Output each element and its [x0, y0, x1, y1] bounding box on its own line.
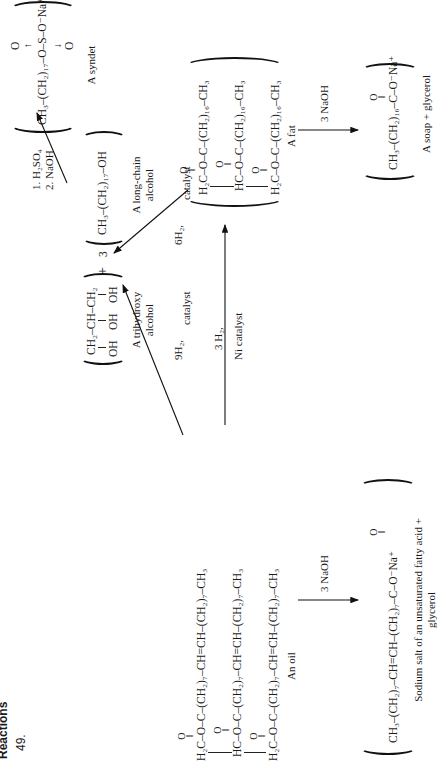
oil-row-1: H₂C–O–C–(CH₂)₇–CH=CH–(CH₂)₇–CH₃ [196, 569, 208, 761]
backbone-bond [244, 752, 266, 753]
fat-label: A fat [285, 125, 298, 147]
reaction-diagram: Reactions 49. CH₃–(CH₂)₁₇–O–S–O⁻Na⁺ O↑ ↓ [0, 0, 437, 765]
right-paren [362, 63, 418, 77]
fat-saponification-reagent: 3 NaOH [318, 85, 331, 122]
glycerol-backbone: CH₂–CH–CH₂ [86, 288, 98, 355]
bond-line [98, 347, 106, 348]
alcohol-formula: CH₃–(CH₂)₁₇–OH [97, 151, 109, 235]
left-paren [360, 741, 416, 755]
backbone-bond [246, 186, 268, 187]
oil-hydrogenolysis-reagent: 9H₂, [172, 340, 185, 360]
glycerol-oh-3: OH [108, 286, 120, 303]
salt-label: Sodium salt of an unsaturated fatty acid… [412, 500, 437, 720]
carbonyl-oxygen: O‖ [180, 165, 196, 175]
fat-hydrogenolysis-reagent: 6H₂, [172, 225, 185, 245]
right-paren [80, 273, 126, 287]
backbone-bond [210, 186, 234, 187]
fat-row-2: HC–O–C–(CH₂)₁₆–CH₃ [234, 80, 246, 191]
carbonyl-oxygen: O‖ [216, 159, 232, 169]
carbonyl-oxygen: O‖ [252, 165, 268, 175]
carbonyl-oxygen: O‖ [214, 725, 230, 735]
oil-saponification-reagent: 3 NaOH [318, 555, 331, 592]
right-paren [10, 1, 76, 17]
salt-formula: CH₃–(CH₂)₇–CH=CH–(CH₂)₇–C–O⁻Na⁺ [388, 551, 400, 743]
syndet-formula: CH₃–(CH₂)₁₇–O–S–O⁻Na⁺ [37, 0, 49, 125]
oil-row-3: H₂C–O–C–(CH₂)₇–CH=CH–(CH₂)₇–CH₃ [268, 569, 280, 761]
plus-sign: + [95, 267, 111, 275]
syndet-bottom-oxygen: ↓O [52, 42, 75, 50]
syndet-label: A syndet [85, 25, 98, 105]
backbone-bond [208, 752, 232, 753]
right-paren [360, 479, 416, 493]
hydrogenation-catalyst: Ni catalyst [232, 313, 245, 360]
soap-label: A soap + glycerol [420, 75, 433, 153]
bond-line [98, 320, 106, 321]
fat-row-3: H₂C–O–C–(CH₂)₁₆–CH₃ [270, 80, 282, 195]
right-paren [82, 131, 126, 145]
reaction-arrows [0, 0, 437, 765]
carbonyl-oxygen: O‖ [370, 527, 386, 537]
stoich-coefficient: 3 [98, 251, 110, 257]
glycerol-oh-2: OH [108, 313, 120, 330]
carbonyl-oxygen: O‖ [250, 731, 266, 741]
syndet-top-oxygen: O↑ [10, 42, 33, 50]
glycerol-oh-1: OH [108, 340, 120, 357]
right-paren [185, 57, 284, 75]
carbonyl-oxygen: O‖ [370, 92, 386, 102]
glycerol-label: A trihydroxy alcohol [130, 280, 155, 360]
bond-line [98, 294, 106, 295]
oil-hydrogenolysis-catalyst: catalyst [180, 291, 193, 325]
oil-label: An oil [285, 652, 298, 680]
reagents-sulfonation: 1. H₂SO₄ 2. NaOH [30, 149, 55, 190]
oil-row-2: HC–O–C–(CH₂)₇–CH=CH–(CH₂)₇–CH₃ [232, 569, 244, 757]
hydrogenation-reagent: 3 H₂, [212, 327, 225, 350]
carbonyl-oxygen: O‖ [178, 731, 194, 741]
alcohol-label: A long-chain alcohol [130, 145, 155, 225]
fat-row-1: H₂C–O–C–(CH₂)₁₆–CH₃ [198, 80, 210, 195]
